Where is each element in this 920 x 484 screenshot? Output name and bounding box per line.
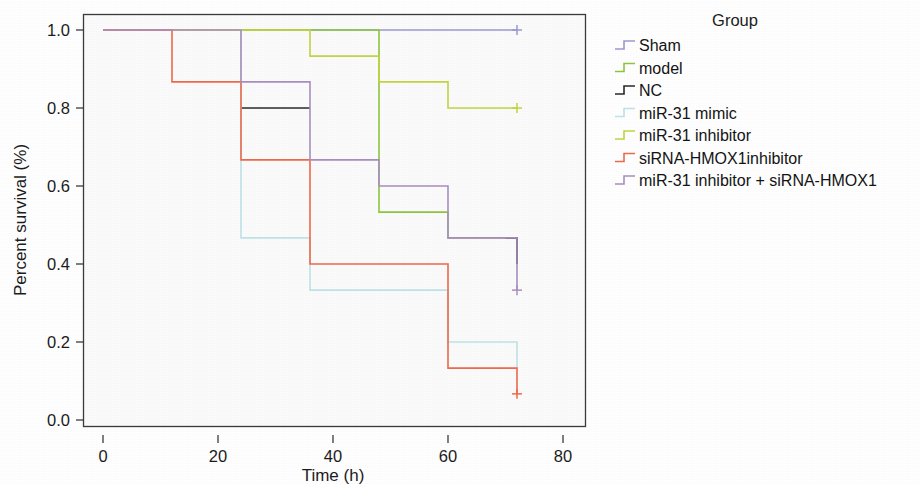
legend-label: model [639,60,683,77]
legend-item[interactable]: miR-31 mimic [615,105,737,122]
legend-item[interactable]: NC [615,82,662,99]
x-tick-label-40: 40 [324,447,342,465]
legend-item[interactable]: model [615,60,683,77]
legend-label: NC [639,82,662,99]
legend-label: miR-31 inhibitor + siRNA-HMOX1 [639,172,877,189]
y-axis: 1.0 0.8 0.6 0.4 0.2 0.0 [47,21,83,429]
legend-label: miR-31 mimic [639,105,737,122]
legend-item[interactable]: Sham [615,37,681,54]
y-tick-label-1.0: 1.0 [47,21,70,39]
y-tick-label-0.2: 0.2 [47,333,70,351]
plot-panel-background [83,14,586,427]
y-axis-title: Percent survival (%) [11,144,30,296]
legend-key-icon [615,86,635,94]
y-tick-label-0.4: 0.4 [47,255,70,273]
x-axis-title: Time (h) [302,466,365,484]
legend-item[interactable]: miR-31 inhibitor + siRNA-HMOX1 [615,172,877,189]
legend-items-group: ShammodelNCmiR-31 mimicmiR-31 inhibitors… [615,37,877,189]
legend-key-icon [615,41,635,49]
x-tick-label-20: 20 [209,447,227,465]
survival-curve-figure: 1.0 0.8 0.6 0.4 0.2 0.0 0 20 40 60 80 Ti… [0,0,920,484]
legend-key-icon [615,64,635,72]
legend-item[interactable]: miR-31 inhibitor [615,127,752,144]
y-tick-label-0.6: 0.6 [47,177,70,195]
legend-key-icon [615,131,635,139]
kaplan-meier-chart: 1.0 0.8 0.6 0.4 0.2 0.0 0 20 40 60 80 Ti… [0,0,920,484]
x-axis: 0 20 40 60 80 [98,435,572,465]
x-tick-label-60: 60 [439,447,457,465]
y-tick-label-0.0: 0.0 [47,411,70,429]
legend-key-icon [615,154,635,162]
legend-key-icon [615,109,635,117]
y-tick-label-0.8: 0.8 [47,99,70,117]
legend-label: siRNA-HMOX1inhibitor [639,150,803,167]
legend-key-icon [615,176,635,184]
legend-label: Sham [639,37,681,54]
x-tick-label-0: 0 [98,447,107,465]
x-tick-label-80: 80 [554,447,572,465]
legend-title: Group [712,11,758,29]
legend-item[interactable]: siRNA-HMOX1inhibitor [615,150,803,167]
legend-label: miR-31 inhibitor [639,127,752,144]
